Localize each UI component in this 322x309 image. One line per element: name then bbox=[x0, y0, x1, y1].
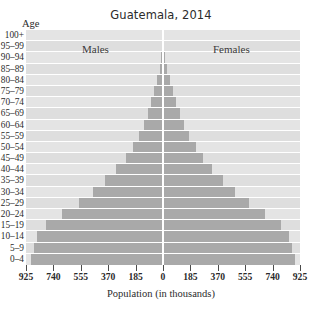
y-tick-label: 30–34 bbox=[0, 188, 24, 197]
bar-male bbox=[37, 231, 163, 241]
series-label-males: Males bbox=[82, 43, 109, 55]
bar-male bbox=[126, 153, 163, 163]
y-tick-label: 55–59 bbox=[0, 132, 24, 141]
bar-female bbox=[163, 120, 184, 130]
y-axis-title: Age bbox=[22, 18, 40, 29]
x-tick-label: 555 bbox=[238, 271, 252, 282]
y-tick-label: 95–99 bbox=[0, 42, 24, 51]
bar-female bbox=[163, 75, 170, 85]
y-tick-label: 20–24 bbox=[0, 210, 24, 219]
x-tick-label: 370 bbox=[101, 271, 115, 282]
bar-female bbox=[163, 175, 223, 185]
y-tick-label: 100+ bbox=[0, 31, 24, 40]
y-tick-label: 15–19 bbox=[0, 221, 24, 230]
bar-female bbox=[163, 243, 292, 253]
y-tick-label: 70–74 bbox=[0, 98, 24, 107]
y-tick-label: 50–54 bbox=[0, 143, 24, 152]
bar-female bbox=[163, 108, 180, 118]
y-tick-label: 45–49 bbox=[0, 154, 24, 163]
y-tick-label: 35–39 bbox=[0, 176, 24, 185]
bar-female bbox=[163, 131, 189, 141]
bar-male bbox=[46, 220, 163, 230]
bar-male bbox=[148, 108, 163, 118]
y-tick-label: 60–64 bbox=[0, 121, 24, 130]
bar-female bbox=[163, 231, 289, 241]
y-tick-label: 0–4 bbox=[0, 255, 24, 264]
bar-male bbox=[31, 254, 163, 265]
x-tick-label: 740 bbox=[46, 271, 60, 282]
plot-area bbox=[26, 30, 300, 265]
bar-female bbox=[163, 142, 196, 152]
series-label-females: Females bbox=[213, 43, 250, 55]
y-tick-label: 75–79 bbox=[0, 87, 24, 96]
y-tick-label: 90–94 bbox=[0, 53, 24, 62]
x-tick-label: 185 bbox=[183, 271, 197, 282]
bar-female bbox=[163, 220, 281, 230]
y-tick-label: 10–14 bbox=[0, 232, 24, 241]
population-pyramid-figure: Guatemala, 2014 Age 100+95–9990–9485–898… bbox=[0, 0, 322, 309]
center-axis-line bbox=[162, 30, 163, 265]
y-tick-label: 85–89 bbox=[0, 65, 24, 74]
bar-male bbox=[62, 209, 163, 219]
bar-male bbox=[139, 131, 163, 141]
x-tick-label: 925 bbox=[293, 271, 307, 282]
chart-title: Guatemala, 2014 bbox=[0, 8, 322, 22]
bar-male bbox=[105, 175, 163, 185]
x-tick-label: 0 bbox=[161, 271, 166, 282]
y-tick-label: 65–69 bbox=[0, 109, 24, 118]
y-tick-label: 25–29 bbox=[0, 199, 24, 208]
bar-male bbox=[133, 142, 163, 152]
bar-male bbox=[34, 243, 163, 253]
bar-female bbox=[163, 254, 295, 265]
bar-female bbox=[163, 164, 212, 174]
y-tick-labels: 100+95–9990–9485–8980–8475–7970–7465–696… bbox=[0, 30, 24, 265]
x-tick-label: 370 bbox=[211, 271, 225, 282]
bar-male bbox=[79, 198, 163, 208]
x-axis-title: Population (in thousands) bbox=[0, 288, 322, 299]
bar-female bbox=[163, 153, 203, 163]
bar-male bbox=[116, 164, 163, 174]
bar-male bbox=[144, 120, 163, 130]
x-tick-labels: 9257405553701850185370555740925 bbox=[26, 271, 300, 285]
bar-male bbox=[93, 187, 163, 197]
bar-male bbox=[151, 97, 163, 107]
x-tick-label: 925 bbox=[19, 271, 33, 282]
bar-female bbox=[163, 86, 173, 96]
bar-female bbox=[163, 187, 235, 197]
y-tick-label: 40–44 bbox=[0, 165, 24, 174]
x-tick-label: 185 bbox=[128, 271, 142, 282]
bar-female bbox=[163, 198, 249, 208]
y-tick-label: 5–9 bbox=[0, 244, 24, 253]
bar-female bbox=[163, 97, 176, 107]
x-tick-label: 740 bbox=[265, 271, 279, 282]
bar-female bbox=[163, 209, 265, 219]
y-tick-label: 80–84 bbox=[0, 76, 24, 85]
x-tick-label: 555 bbox=[74, 271, 88, 282]
